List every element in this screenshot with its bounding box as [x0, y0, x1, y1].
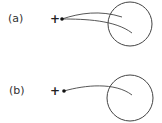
particle-dot-a	[60, 17, 64, 21]
target-circle-b	[107, 75, 153, 121]
trajectory-a-lower	[62, 19, 132, 33]
target-circle-a	[108, 2, 152, 46]
diagram-canvas	[0, 0, 162, 123]
trajectory-b	[64, 86, 132, 95]
particle-dot-b	[62, 89, 66, 93]
trajectory-a-upper	[62, 13, 122, 19]
